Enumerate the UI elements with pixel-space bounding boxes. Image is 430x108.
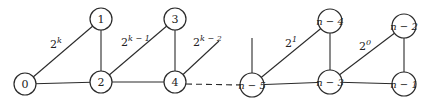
svg-text:2: 2 bbox=[98, 76, 105, 89]
node-n-1: n − 1 bbox=[390, 72, 418, 96]
svg-text:n − 3: n − 3 bbox=[316, 77, 344, 88]
node-4: 4 bbox=[164, 71, 186, 93]
node-3: 3 bbox=[164, 8, 186, 30]
edge-4-n5-dashed bbox=[186, 84, 241, 85]
graph-diagram: 2k 2k − 1 2k − 2 21 20 0 1 2 3 4 n − 5 n… bbox=[0, 0, 430, 108]
svg-text:n − 2: n − 2 bbox=[390, 21, 418, 32]
svg-text:n − 4: n − 4 bbox=[316, 16, 344, 27]
svg-text:4: 4 bbox=[172, 76, 179, 89]
svg-text:n − 5: n − 5 bbox=[238, 80, 266, 91]
svg-text:3: 3 bbox=[172, 13, 179, 26]
edge-2-3 bbox=[101, 19, 175, 82]
edge-0-1 bbox=[25, 19, 101, 84]
weight-label-2k: 2k bbox=[50, 36, 62, 51]
svg-text:1: 1 bbox=[98, 13, 105, 26]
node-n-2: n − 2 bbox=[390, 14, 418, 38]
weight-label-2k-1: 2k − 1 bbox=[121, 34, 150, 49]
edges bbox=[25, 19, 404, 85]
svg-text:n − 1: n − 1 bbox=[390, 79, 418, 90]
node-0: 0 bbox=[14, 73, 36, 95]
edge-n5-n4 bbox=[252, 21, 330, 85]
weight-label-2k-2: 2k − 2 bbox=[193, 34, 222, 49]
edge-n3-n2 bbox=[330, 26, 404, 82]
node-n-3: n − 3 bbox=[316, 70, 344, 94]
node-1: 1 bbox=[90, 8, 112, 30]
weight-label-2-0: 20 bbox=[359, 38, 371, 53]
weight-label-2-1: 21 bbox=[285, 35, 297, 50]
node-2: 2 bbox=[90, 71, 112, 93]
svg-text:0: 0 bbox=[22, 78, 29, 91]
